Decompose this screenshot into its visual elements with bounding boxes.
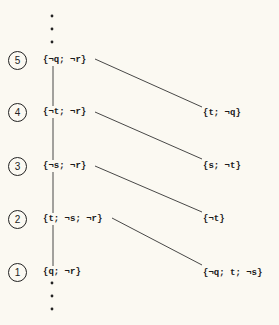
step-number-1: 1 xyxy=(8,263,27,282)
ellipsis-dot-bottom xyxy=(51,282,54,285)
step-number-2: 2 xyxy=(8,210,27,229)
clause-right-1: {t; ¬q} xyxy=(203,108,241,118)
clause-left-3: {¬s; ¬r} xyxy=(43,161,86,171)
clause-right-2: {s; ¬t} xyxy=(203,161,241,171)
edge-2-right xyxy=(112,218,202,265)
edge-5-right xyxy=(95,59,202,107)
ellipsis-dot-bottom xyxy=(51,308,54,311)
clause-right-4: {¬q; t; ¬s} xyxy=(203,268,262,278)
ellipsis-dot-bottom xyxy=(51,295,54,298)
clause-left-5: {¬q; ¬r} xyxy=(43,55,86,65)
ellipsis-dot-top xyxy=(51,41,54,44)
resolution-diagram: 5 4 3 2 1 {¬q; ¬r} {¬t; ¬r} {¬s; ¬r} {t;… xyxy=(0,0,279,325)
edge-3-right xyxy=(95,166,202,212)
clause-left-4: {¬t; ¬r} xyxy=(43,107,86,117)
step-number-4: 4 xyxy=(8,103,27,122)
clause-left-2: {t; ¬s; ¬r} xyxy=(43,214,102,224)
step-number-3: 3 xyxy=(8,157,27,176)
ellipsis-dot-top xyxy=(51,28,54,31)
step-number-5: 5 xyxy=(8,51,27,70)
clause-right-3: {¬t} xyxy=(203,214,225,224)
clause-left-1: {q; ¬r} xyxy=(43,267,81,277)
edge-4-right xyxy=(95,112,202,159)
ellipsis-dot-top xyxy=(51,15,54,18)
